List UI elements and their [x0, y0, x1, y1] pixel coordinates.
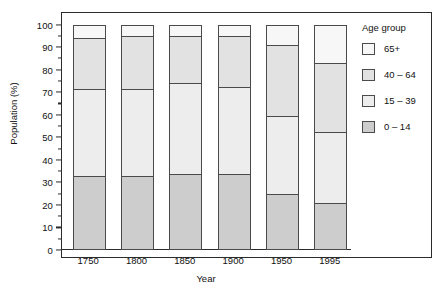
- y-tick-label: 50: [42, 132, 53, 143]
- legend-label: 40 – 64: [384, 69, 416, 80]
- legend-label: 65+: [384, 43, 400, 54]
- x-tick-label: 1750: [78, 255, 99, 266]
- bar-segment: [122, 90, 153, 177]
- y-tick-label: 10: [42, 222, 53, 233]
- bar-segment: [315, 133, 346, 205]
- bar-segment: [315, 204, 346, 249]
- bars-layer: [62, 12, 352, 250]
- y-tick-label: 20: [42, 199, 53, 210]
- legend: Age group 65+40 – 6415 – 390 – 14: [362, 22, 442, 146]
- x-tick-label: 1850: [174, 255, 195, 266]
- legend-swatch: [362, 95, 375, 107]
- y-tick-label: 90: [42, 42, 53, 53]
- bar-1995: [314, 25, 347, 251]
- legend-item: 65+: [362, 42, 442, 55]
- x-axis-title: Year: [196, 273, 215, 284]
- legend-item: 0 – 14: [362, 120, 442, 133]
- bar-segment: [267, 26, 298, 46]
- bar-segment: [315, 64, 346, 133]
- bar-segment: [170, 84, 201, 176]
- bar-1950: [266, 25, 299, 251]
- bar-segment: [74, 90, 105, 177]
- bar-segment: [74, 39, 105, 90]
- bar-segment: [170, 26, 201, 37]
- bar-segment: [74, 26, 105, 39]
- bar-segment: [74, 177, 105, 249]
- bar-segment: [219, 175, 250, 249]
- y-tick-label: 40: [42, 154, 53, 165]
- plot-area: [61, 12, 351, 250]
- x-tick-label: 1800: [126, 255, 147, 266]
- y-tick-label: 70: [42, 87, 53, 98]
- bar-1900: [218, 25, 251, 251]
- legend-label: 15 – 39: [384, 95, 416, 106]
- y-tick-label: 80: [42, 64, 53, 75]
- bar-segment: [315, 26, 346, 64]
- bar-segment: [267, 195, 298, 249]
- bar-segment: [219, 88, 250, 175]
- bar-segment: [219, 26, 250, 37]
- bar-1800: [121, 25, 154, 251]
- legend-label: 0 – 14: [384, 121, 410, 132]
- bar-segment: [267, 117, 298, 195]
- legend-swatch: [362, 69, 375, 81]
- bar-segment: [122, 37, 153, 91]
- bar-segment: [267, 46, 298, 118]
- x-tick-label: 1900: [223, 255, 244, 266]
- bar-segment: [122, 177, 153, 249]
- legend-swatch: [362, 43, 375, 55]
- legend-title: Age group: [362, 22, 442, 33]
- legend-swatch: [362, 121, 375, 133]
- y-axis-title: Population (%): [8, 54, 19, 174]
- legend-items: 65+40 – 6415 – 390 – 14: [362, 42, 442, 133]
- x-tick-label: 1950: [271, 255, 292, 266]
- legend-item: 40 – 64: [362, 68, 442, 81]
- legend-item: 15 – 39: [362, 94, 442, 107]
- bar-segment: [170, 175, 201, 249]
- bar-segment: [219, 37, 250, 88]
- bar-segment: [122, 26, 153, 37]
- x-tick-label: 1995: [319, 255, 340, 266]
- y-tick-label: 60: [42, 109, 53, 120]
- stacked-bar-chart-figure: 0102030405060708090100 Population (%) 17…: [0, 0, 446, 299]
- bar-segment: [170, 37, 201, 84]
- bar-1750: [73, 25, 106, 251]
- y-tick-label: 100: [37, 19, 53, 30]
- y-tick-label: 30: [42, 177, 53, 188]
- bar-1850: [169, 25, 202, 251]
- y-tick-label: 0: [48, 245, 53, 256]
